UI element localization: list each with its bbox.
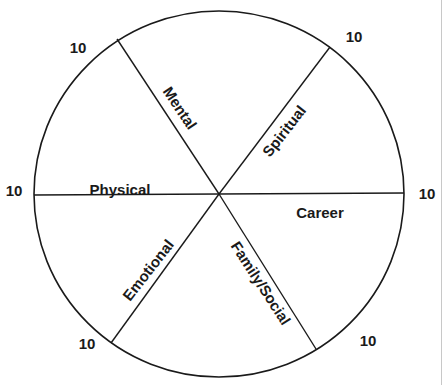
segment-labels: PhysicalMentalSpiritualCareerFamily/Soci… — [90, 84, 344, 328]
segment-label-career: Career — [296, 204, 344, 221]
scale-max-label: 10 — [79, 335, 96, 352]
scale-max-label: 10 — [419, 185, 436, 202]
segment-label-family-social: Family/Social — [228, 238, 294, 328]
spoke-mental — [117, 39, 219, 194]
life-balance-wheel: PhysicalMentalSpiritualCareerFamily/Soci… — [0, 0, 448, 385]
segment-label-mental: Mental — [160, 84, 201, 133]
segment-label-emotional: Emotional — [119, 236, 177, 304]
page-edge-divider — [441, 0, 442, 385]
scale-max-label: 10 — [70, 39, 87, 56]
scale-max-label: 10 — [346, 28, 363, 45]
segment-label-physical: Physical — [90, 181, 151, 198]
spoke-emotional — [111, 194, 219, 343]
spoke-spiritual — [219, 47, 330, 194]
spoke-right — [219, 193, 404, 194]
scale-max-label: 10 — [6, 182, 23, 199]
scale-max-label: 10 — [360, 332, 377, 349]
